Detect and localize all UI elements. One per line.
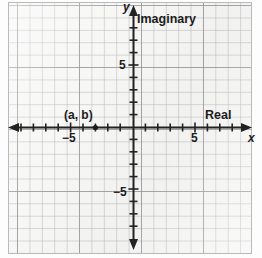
y-tick-label-negative-5: −5 xyxy=(113,186,127,198)
real-axis-title: Real xyxy=(205,109,231,122)
x-variable-label: x xyxy=(248,132,255,144)
x-tick-label-negative-5: −5 xyxy=(62,132,76,144)
complex-plane-figure: Imaginary Real y x 5 −5 5 −5 (a, b) xyxy=(0,0,262,258)
plotted-point-a-b xyxy=(93,125,98,130)
x-axis xyxy=(8,123,252,133)
y-variable-label: y xyxy=(123,1,130,13)
point-annotation-label: (a, b) xyxy=(64,109,93,121)
axes-layer xyxy=(0,0,262,258)
imaginary-axis-title: Imaginary xyxy=(137,13,196,26)
y-tick-label-positive-5: 5 xyxy=(119,59,126,71)
x-tick-label-positive-5: 5 xyxy=(191,132,198,144)
